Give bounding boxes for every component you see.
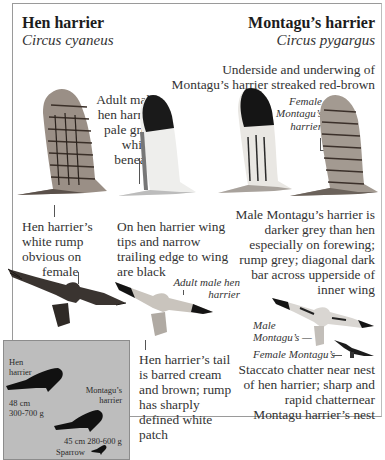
label-female-montagu-flight: Female Montagu’s [253,348,335,360]
hen-harrier-female-flight-illustration [6,265,128,335]
hen-harrier-size: 48 cm 300-700 g [9,399,44,419]
sparrow-silhouette-label: Sparrow [56,448,85,458]
pointer-line [332,355,342,356]
montagus-harrier-female-underside-illustration [290,92,382,202]
hen-harrier-male-underside-illustration [118,92,200,200]
montagus-harrier-female-flight-illustration [334,338,376,362]
montagus-harrier-title: Montagu’s harrier [248,14,375,32]
pointer-line [54,205,55,217]
pointer-line [145,340,146,350]
caption-wing-tips: On hen harrier wing tips and narrow trai… [117,219,237,279]
sparrow-silhouette [91,445,107,455]
hen-harrier-latin: Circus cyaneus [22,32,114,49]
hen-harrier-silhouette [6,366,64,394]
hen-harrier-title: Hen harrier [22,14,104,32]
hen-harrier-female-underside-illustration [15,85,110,200]
hen-harrier-male-flight-illustration [113,280,215,342]
montagus-harrier-silhouette [54,410,104,434]
caption-call: Staccato chatter near nest of hen harrie… [225,362,375,422]
caption-male-montagu-darker: Male Montagu’s harrier is darker grey th… [225,207,375,297]
montagus-harrier-silhouette-label: Montagu’s harrier [70,386,122,406]
montagus-harrier-male-underside-illustration [218,85,296,200]
montagus-harrier-latin: Circus pygargus [277,32,375,49]
label-male-montagu: Male Montagu’s — [253,319,313,344]
